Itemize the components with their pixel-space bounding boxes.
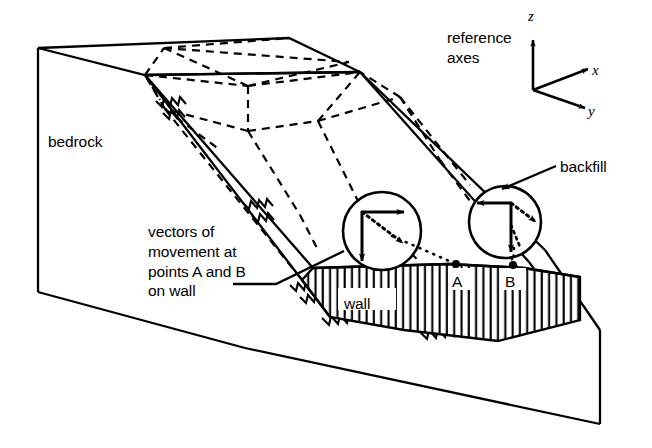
wall-label: wall bbox=[344, 294, 370, 314]
block-diagram-figure: bedrock reference axes backfill vectors … bbox=[0, 0, 652, 448]
bedrock-top-face bbox=[38, 38, 360, 75]
backfill-leader bbox=[502, 166, 556, 189]
vector-circle-b bbox=[469, 186, 541, 258]
vector-circle-a-outline bbox=[343, 192, 421, 270]
dash-apex-up bbox=[145, 48, 164, 75]
zigzag-upper-left bbox=[156, 97, 186, 107]
dash-far-right bbox=[318, 97, 400, 121]
diagram-canvas bbox=[0, 0, 652, 448]
dash-down-right bbox=[318, 121, 360, 205]
dash-right-up bbox=[318, 72, 360, 121]
axis-x-label: x bbox=[592, 62, 599, 79]
axis-y-arrow bbox=[533, 90, 585, 108]
dash-right-mid-down bbox=[400, 97, 470, 185]
zigzag-mid-slope bbox=[243, 199, 273, 209]
vector-circle-b-outline bbox=[469, 186, 541, 258]
axis-z-label: z bbox=[528, 8, 534, 25]
bedrock-label: bedrock bbox=[48, 132, 102, 152]
vector-circle-a bbox=[343, 192, 421, 270]
bedrock-bottom-front-edge bbox=[245, 348, 600, 424]
point-b-label: B bbox=[505, 272, 515, 292]
vectors-of-movement-label: vectors of movement at points A and B on… bbox=[148, 222, 246, 301]
reference-axes-label: reference axes bbox=[447, 28, 512, 68]
axis-y-label: y bbox=[588, 103, 595, 120]
dash-apex-mid bbox=[145, 75, 248, 86]
axis-x-arrow bbox=[533, 69, 588, 90]
dash-mid-right-low bbox=[248, 121, 318, 131]
backfill-label: backfill bbox=[560, 157, 607, 177]
slope-ridge bbox=[145, 72, 360, 75]
reference-axes-glyph bbox=[533, 40, 588, 108]
point-a-label: A bbox=[452, 272, 462, 292]
dash-center-lower bbox=[300, 215, 318, 250]
backfill-leader-line bbox=[502, 166, 556, 189]
